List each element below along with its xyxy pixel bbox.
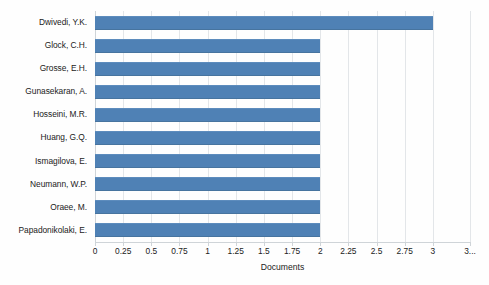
bar[interactable] [95, 200, 320, 214]
category-label: Glock, C.H. [0, 34, 92, 57]
axis-tick-label: 2.25 [340, 246, 356, 256]
category-label: Gunasekaran, A. [0, 80, 92, 103]
bar-row [95, 80, 470, 103]
axis-tick-label: 3... [464, 246, 476, 256]
category-label: Grosse, E.H. [0, 57, 92, 80]
bar-row [95, 196, 470, 219]
category-label: Ismagilova, E. [0, 150, 92, 173]
axis-tick-label: 1.5 [258, 246, 270, 256]
category-label: Neumann, W.P. [0, 173, 92, 196]
bar-row [95, 150, 470, 173]
bar-row [95, 219, 470, 242]
bar[interactable] [95, 62, 320, 76]
bar[interactable] [95, 16, 433, 30]
value-axis-title: Documents [95, 262, 470, 272]
bar[interactable] [95, 177, 320, 191]
bar-row [95, 34, 470, 57]
axis-tick-label: 0.75 [171, 246, 187, 256]
axis-tick-label: 0.5 [145, 246, 157, 256]
bar-row [95, 173, 470, 196]
bar[interactable] [95, 223, 320, 237]
bar[interactable] [95, 39, 320, 53]
axis-tick-label: 0 [93, 246, 98, 256]
plot-area [95, 11, 470, 242]
axis-tick-label: 1.75 [284, 246, 300, 256]
category-axis: Dwivedi, Y.K.Glock, C.H.Grosse, E.H.Guna… [0, 11, 92, 242]
bar-row [95, 103, 470, 126]
bar[interactable] [95, 85, 320, 99]
axis-tick-label: 1 [205, 246, 210, 256]
category-label: Huang, G.Q. [0, 126, 92, 149]
axis-tick-label: 2.75 [397, 246, 413, 256]
axis-tick-label: 3 [430, 246, 435, 256]
bar[interactable] [95, 108, 320, 122]
value-axis-ticks: 00.250.50.7511.251.51.7522.252.52.7533..… [95, 242, 470, 258]
bars-layer [95, 11, 470, 242]
bar-row [95, 126, 470, 149]
bar-row [95, 57, 470, 80]
axis-tick-label: 2.5 [371, 246, 383, 256]
bar[interactable] [95, 154, 320, 168]
bar-row [95, 11, 470, 34]
category-label: Papadonikolaki, E. [0, 219, 92, 242]
gridline [470, 11, 471, 242]
bar-chart: Dwivedi, Y.K.Glock, C.H.Grosse, E.H.Guna… [0, 0, 489, 285]
axis-tick-label: 1.25 [228, 246, 244, 256]
category-label: Hosseini, M.R. [0, 103, 92, 126]
bar[interactable] [95, 131, 320, 145]
category-label: Oraee, M. [0, 196, 92, 219]
category-label: Dwivedi, Y.K. [0, 11, 92, 34]
axis-tick-label: 0.25 [115, 246, 131, 256]
axis-tick-label: 2 [318, 246, 323, 256]
